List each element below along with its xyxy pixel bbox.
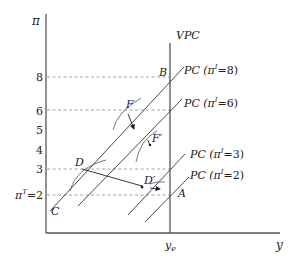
- point-a-label: A: [177, 187, 186, 200]
- pc-line-6: [78, 99, 182, 206]
- point-c-label: C: [51, 205, 60, 218]
- y-tick-4: 4: [36, 144, 43, 157]
- y-tick-target: πT=2: [14, 188, 43, 202]
- point-d-prime-label: D′: [143, 174, 156, 187]
- arrow-d-prime-right: [150, 188, 160, 189]
- y-tick-6: 6: [36, 105, 43, 118]
- pc3-label: PC (πI=3): [189, 147, 244, 161]
- x-tick-ye: ye: [164, 239, 176, 253]
- pc2-label: PC (πI=2): [189, 168, 244, 182]
- vpc-label: VPC: [176, 29, 200, 42]
- point-d-label: D: [74, 156, 84, 169]
- y-axis-label: π: [31, 14, 41, 28]
- pc6-label: PC (πI=6): [183, 96, 238, 110]
- phillips-curve-diagram: π y ye 8 6 5 4 3 πT=2 VPC PC (πI=8) PC (…: [0, 0, 296, 262]
- point-f-prime-dot: [149, 144, 152, 147]
- y-tick-5: 5: [36, 124, 43, 137]
- pc8-label: PC (πI=8): [183, 63, 238, 77]
- point-f-prime-label: F′: [151, 132, 163, 145]
- point-f-label: F: [125, 98, 134, 111]
- point-d-prime-dot: [141, 186, 144, 189]
- x-axis-label: y: [275, 238, 283, 252]
- y-tick-3: 3: [36, 163, 43, 176]
- point-b-label: B: [158, 66, 167, 79]
- y-tick-8: 8: [36, 71, 43, 84]
